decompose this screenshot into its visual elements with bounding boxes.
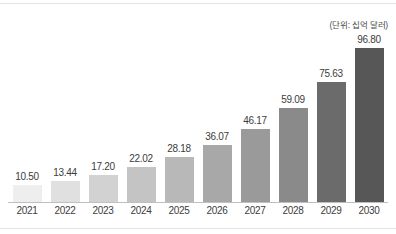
bar-series: 10.5013.4417.2022.0228.1836.0746.1759.09… xyxy=(8,32,388,202)
bar-value-label: 75.63 xyxy=(319,69,343,79)
bar-rect[interactable] xyxy=(51,181,80,202)
bar-rect[interactable] xyxy=(355,48,384,202)
x-tick-label: 2023 xyxy=(84,205,122,216)
bar-value-label: 96.80 xyxy=(357,35,381,45)
bar-group: 17.20 xyxy=(84,32,122,202)
bar-group: 59.09 xyxy=(274,32,312,202)
bar-value-label: 28.18 xyxy=(167,144,191,154)
bar-value-label: 46.17 xyxy=(243,116,267,126)
bar-value-label: 13.44 xyxy=(53,168,77,178)
unit-annotation: (단위: 십억 달러) xyxy=(329,18,388,30)
bar-group: 28.18 xyxy=(160,32,198,202)
bar-group: 75.63 xyxy=(312,32,350,202)
plot-area: 10.5013.4417.2022.0228.1836.0746.1759.09… xyxy=(8,32,388,203)
bar-rect[interactable] xyxy=(13,185,42,202)
x-tick-label: 2024 xyxy=(122,205,160,216)
x-axis-line xyxy=(8,202,388,203)
bar-rect[interactable] xyxy=(317,82,346,202)
x-tick-label: 2030 xyxy=(350,205,388,216)
bottom-divider-rule xyxy=(0,228,396,229)
bar-group: 46.17 xyxy=(236,32,274,202)
x-tick-label: 2026 xyxy=(198,205,236,216)
x-tick-label: 2025 xyxy=(160,205,198,216)
bar-value-label: 17.20 xyxy=(91,162,115,172)
bar-value-label: 36.07 xyxy=(205,132,229,142)
bar-value-label: 22.02 xyxy=(129,154,153,164)
x-tick-label: 2028 xyxy=(274,205,312,216)
x-tick-label: 2022 xyxy=(46,205,84,216)
bar-value-label: 59.09 xyxy=(281,95,305,105)
x-tick-label: 2029 xyxy=(312,205,350,216)
x-axis-tick-labels: 2021202220232024202520262027202820292030 xyxy=(8,205,388,216)
bar-group: 10.50 xyxy=(8,32,46,202)
bar-rect[interactable] xyxy=(241,129,270,202)
bar-chart-figure: (단위: 십억 달러) 10.5013.4417.2022.0228.1836.… xyxy=(0,0,396,234)
bar-group: 36.07 xyxy=(198,32,236,202)
bar-group: 96.80 xyxy=(350,32,388,202)
bar-rect[interactable] xyxy=(203,145,232,202)
bar-group: 22.02 xyxy=(122,32,160,202)
bar-rect[interactable] xyxy=(89,175,118,202)
bar-value-label: 10.50 xyxy=(15,172,39,182)
bar-rect[interactable] xyxy=(127,167,156,202)
bar-rect[interactable] xyxy=(279,108,308,202)
x-tick-label: 2021 xyxy=(8,205,46,216)
x-tick-label: 2027 xyxy=(236,205,274,216)
top-divider-rule xyxy=(0,3,396,4)
bar-rect[interactable] xyxy=(165,157,194,202)
bar-group: 13.44 xyxy=(46,32,84,202)
